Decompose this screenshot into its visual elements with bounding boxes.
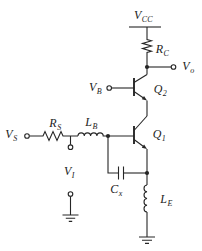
label-vs: VS [5,128,16,140]
label-q2-main: Q [154,82,163,96]
terminal-circle-icon [171,65,176,70]
label-cx-main: C [110,182,118,196]
label-vi-main: V [64,164,71,178]
label-q1-main: Q [153,127,162,141]
q2-emitter-arrow-icon [142,96,147,101]
ground-icon [63,215,79,221]
cap-left-wire [108,136,119,173]
node-dot-icon [106,134,110,138]
label-cx-sub: x [119,189,123,198]
node-dot-icon [145,171,149,175]
label-vi: VI [64,165,74,177]
label-vi-sub: I [72,171,75,180]
label-vs-sub: S [13,134,17,143]
terminal-circle-icon [68,145,73,150]
schematic-drawing [0,0,202,251]
label-vb: VB [89,81,101,93]
q2-emitter-wire [134,92,144,99]
label-vo-main: V [182,59,189,73]
label-q2-sub: 2 [163,89,167,98]
le-inductor [144,185,147,212]
label-q2: Q2 [154,83,167,95]
cx-capacitor [108,136,147,180]
vo-terminal [147,65,176,70]
capacitor-plates-icon [119,167,124,180]
label-q1-sub: 1 [162,134,166,143]
ground-icon [139,237,155,243]
label-vcc-sub: CC [142,15,153,24]
label-le-sub: E [167,199,172,208]
label-rc: RC [156,43,169,55]
ground-right [139,212,155,243]
ground-left [63,196,79,221]
vb-terminal [107,86,112,91]
circuit-schematic: VCC RC Vo VB Q2 Q1 VS RS LB VI Cx LE [0,0,202,251]
label-rc-main: R [156,42,163,56]
label-lb-main: L [85,115,92,129]
q1-transistor [134,116,147,185]
label-rs-main: R [49,116,56,130]
label-vb-sub: B [97,87,102,96]
label-cx: Cx [110,183,122,195]
label-vcc-main: V [134,8,141,22]
q1-emitter-arrow-icon [142,144,147,149]
label-rs: RS [49,117,60,129]
label-lb: LB [85,116,97,128]
label-rc-sub: C [164,49,169,58]
q2-collector-wire [134,75,147,83]
vs-terminal [25,134,30,139]
label-vo: Vo [182,60,193,72]
label-vb-main: V [89,80,96,94]
label-vs-main: V [5,127,12,141]
q1-emitter-wire [134,140,144,147]
label-le: LE [160,193,172,205]
q2-transistor [112,75,148,101]
terminal-circle-icon [68,192,73,197]
label-vcc: VCC [134,9,152,21]
label-le-main: L [160,192,167,206]
label-lb-sub: B [92,122,97,131]
q1-collector-wire [134,116,147,131]
label-rs-sub: S [57,123,61,132]
inductor-coil-icon [144,185,147,212]
terminal-circle-icon [107,86,112,91]
label-q1: Q1 [153,128,166,140]
node-dot-icon [145,65,149,69]
terminal-circle-icon [25,134,30,139]
label-vo-sub: o [190,66,194,75]
